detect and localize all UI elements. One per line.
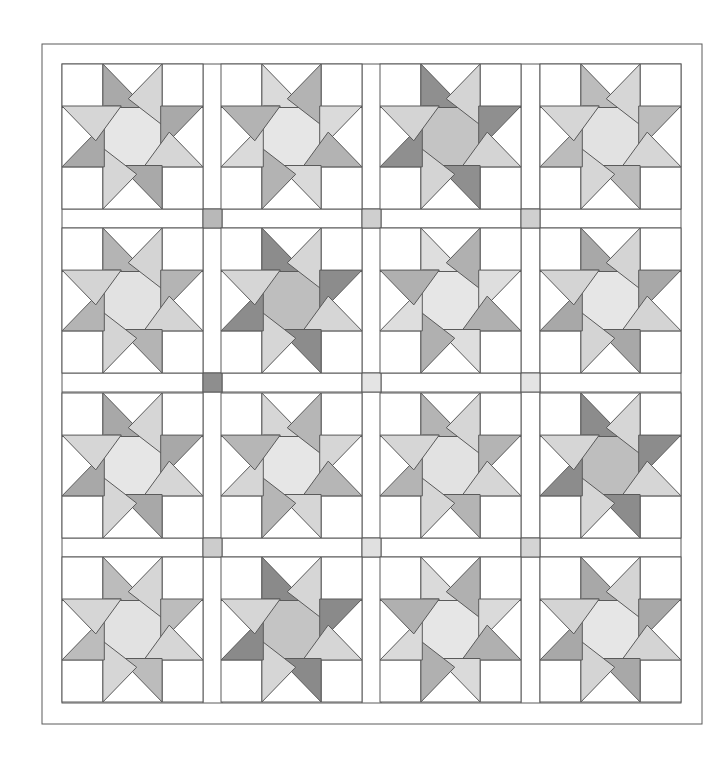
cornerstone bbox=[362, 209, 381, 228]
cornerstone bbox=[203, 209, 222, 228]
cornerstone bbox=[203, 538, 222, 557]
cornerstone bbox=[203, 373, 222, 392]
cornerstone bbox=[521, 209, 540, 228]
cornerstone bbox=[362, 373, 381, 392]
quilt-pattern bbox=[0, 0, 719, 760]
cornerstone bbox=[362, 538, 381, 557]
quilt-layer bbox=[42, 44, 702, 724]
cornerstone bbox=[521, 373, 540, 392]
cornerstone bbox=[521, 538, 540, 557]
